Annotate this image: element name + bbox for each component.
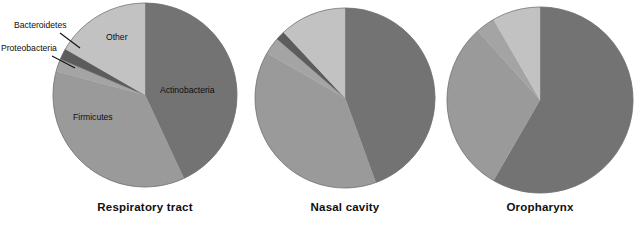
callout-label-bacteroidetes: Bacteroidetes [14,20,67,30]
slice-label-other: Other [106,32,128,42]
panel-caption-oropharynx: Oropharynx [440,201,638,213]
pie-oropharynx [447,7,633,193]
panel-caption-nasal-cavity: Nasal cavity [245,201,445,213]
pie-slices-layer [53,3,633,193]
slice-label-firmicutes: Firmicutes [73,112,113,122]
slice-label-actinobacteria: Actinobacteria [160,85,214,95]
callout-label-proteobacteria: Proteobacteria [1,43,57,53]
pie-nasal-cavity [255,8,435,188]
panel-caption-respiratory-tract: Respiratory tract [45,201,245,213]
pie-chart-figure: Actinobacteria Firmicutes Other Bacteroi… [0,0,638,225]
pie-respiratory-tract [53,3,237,187]
